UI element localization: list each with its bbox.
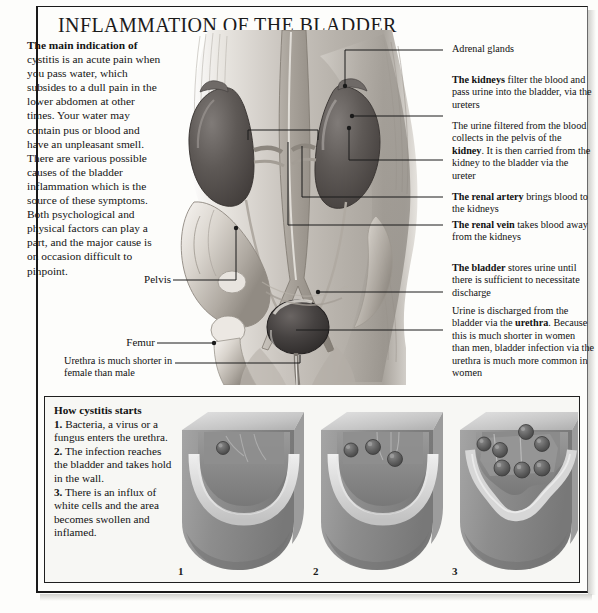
fig3-cell-6-highlight	[517, 465, 521, 469]
fig3-cell-1-highlight	[480, 439, 484, 443]
bladder	[267, 300, 329, 354]
callout-urethra-bold: urethra	[515, 317, 548, 328]
callout-renal-pelvis-pre: The urine filtered from the blood collec…	[452, 120, 586, 143]
callout-renal-artery: The renal artery brings blood to the kid…	[452, 191, 592, 216]
acetabulum	[218, 271, 246, 293]
callout-adrenal-text: Adrenal glands	[452, 43, 514, 54]
fig3-cell-7-highlight	[537, 463, 541, 467]
step-3-text: There is an influx of white cells and th…	[54, 486, 159, 539]
fig1-pathogen-highlight	[219, 444, 223, 448]
intro-lead: The main indication of	[27, 39, 137, 51]
callout-kidneys: The kidneys filter the blood and pass ur…	[452, 74, 592, 111]
fig2-pathogen-2-highlight	[368, 442, 372, 446]
step-1: 1. Bacteria, a virus or a fungus enters …	[54, 418, 172, 445]
label-femur: Femur	[93, 336, 155, 348]
callout-bladder-bold: The bladder	[452, 262, 506, 273]
callout-renal-vein-bold: The renal vein	[452, 219, 515, 230]
fig2-pathogen-1	[344, 443, 358, 457]
step-2-text: The infection reaches the bladder and ta…	[54, 445, 171, 484]
callout-kidneys-bold: The kidneys	[452, 74, 505, 85]
label-urethra-note: Urethra is much shorter in female than m…	[64, 355, 176, 380]
anatomy-illustration	[170, 30, 430, 385]
fig3-cell-7	[534, 460, 550, 476]
fig3-cell-4-highlight	[537, 439, 541, 443]
fig3-cell-2-highlight	[495, 445, 499, 449]
bladder-wall-figures	[168, 402, 578, 580]
callout-renal-vein: The renal vein takes blood away from the…	[452, 219, 592, 244]
callout-adrenal-glands: Adrenal glands	[452, 43, 590, 55]
panel-title: How cystitis starts	[54, 404, 172, 418]
page-canvas: INFLAMMATION OF THE BLADDER The main ind…	[0, 0, 598, 613]
fig1-cavity-back	[204, 432, 284, 464]
step-1-text: Bacteria, a virus or a fungus enters the…	[54, 418, 168, 444]
fig2-pathogen-2	[366, 440, 381, 455]
figure-1-bladder-wall	[182, 412, 304, 570]
fig3-cell-1	[477, 437, 491, 451]
intro-body: cystitis is an acute pain when you pass …	[27, 53, 160, 276]
fig3-top-left	[460, 412, 578, 430]
fig1-top-left	[182, 412, 304, 430]
cystitis-steps-list: How cystitis starts 1. Bacteria, a virus…	[54, 404, 172, 540]
fig2-pathogen-3-highlight	[390, 454, 394, 458]
figure-3-bladder-wall	[460, 412, 578, 570]
fig2-pathogen-1-highlight	[346, 445, 350, 449]
fig1-pathogen	[217, 442, 230, 455]
step-3: 3. There is an influx of white cells and…	[54, 486, 172, 540]
page-edge-shadow-bottom	[40, 594, 592, 601]
fig3-cell-2	[493, 443, 508, 458]
callout-bladder: The bladder stores urine until there is …	[452, 262, 594, 299]
fig3-cell-4	[535, 437, 550, 452]
label-pelvis: Pelvis	[93, 273, 171, 285]
step-2: 2. The infection reaches the bladder and…	[54, 445, 172, 486]
callout-renal-artery-bold: The renal artery	[452, 191, 524, 202]
fig3-cell-6	[514, 462, 530, 478]
fig3-cell-5-highlight	[497, 463, 501, 467]
fig3-cell-5	[494, 460, 510, 476]
fig3-cell-3-highlight	[521, 427, 525, 431]
callout-renal-pelvis-bold: kidney	[452, 145, 481, 156]
fig2-top-left	[321, 412, 443, 430]
figure-2-bladder-wall	[321, 412, 443, 570]
callout-renal-pelvis: The urine filtered from the blood collec…	[452, 120, 594, 182]
figure-number-2: 2	[313, 565, 319, 577]
fig3-cell-3	[519, 425, 534, 440]
callout-urethra: Urine is discharged from the bladder via…	[452, 305, 594, 379]
figure-number-3: 3	[452, 565, 458, 577]
figure-number-1: 1	[178, 565, 184, 577]
fig2-pathogen-3	[388, 452, 403, 467]
intro-paragraph: The main indication of cystitis is an ac…	[27, 38, 163, 278]
